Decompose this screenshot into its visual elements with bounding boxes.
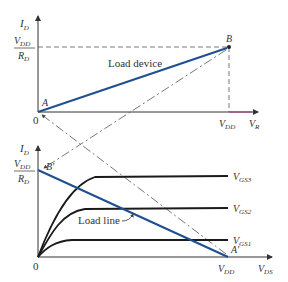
load-line-callout bbox=[122, 214, 133, 221]
vgs2-label: VGS2 bbox=[233, 203, 252, 216]
point-b-label: B bbox=[226, 33, 232, 44]
bottom-graph: ID VDD RD B′ A′ 0 Load line VGS3 VGS2 VG… bbox=[14, 142, 273, 276]
top-y-axis-label: ID bbox=[19, 17, 29, 32]
bottom-x-tick-vdd: VDD bbox=[218, 263, 234, 276]
load-line-label: Load line bbox=[78, 214, 120, 226]
top-origin-label: 0 bbox=[33, 114, 39, 126]
bottom-y-tick-numerator: VDD bbox=[14, 158, 30, 171]
bottom-x-axis-label: VDS bbox=[258, 263, 273, 276]
curve-vgs2 bbox=[38, 208, 228, 257]
point-a-label: A bbox=[41, 97, 49, 108]
top-graph: ID VDD RD 0 A B Load device VDD VR bbox=[14, 16, 260, 131]
top-y-tick-numerator: VDD bbox=[14, 35, 30, 48]
mapping-arrows bbox=[42, 50, 226, 254]
top-y-tick-denominator: RD bbox=[17, 50, 29, 63]
curve-vgs1 bbox=[38, 240, 228, 257]
bottom-origin-label: 0 bbox=[33, 260, 39, 272]
vgs3-label: VGS3 bbox=[233, 171, 252, 184]
top-x-tick-vdd: VDD bbox=[219, 118, 235, 131]
load-device-label: Load device bbox=[108, 57, 162, 69]
bottom-y-axis-label: ID bbox=[19, 142, 29, 157]
load-line bbox=[38, 170, 228, 257]
load-line-diagram: ID VDD RD 0 A B Load device VDD VR ID VD… bbox=[0, 0, 288, 282]
point-b-dot bbox=[227, 45, 231, 49]
top-x-axis-label: VR bbox=[249, 118, 260, 131]
bottom-y-tick-denominator: RD bbox=[17, 173, 29, 186]
point-b-prime-label: B′ bbox=[46, 161, 55, 172]
